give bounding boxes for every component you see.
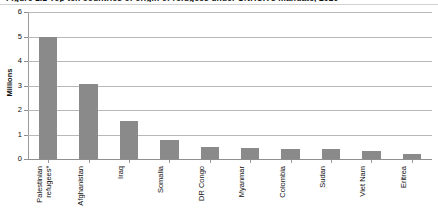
y-tick-label-5: 5	[10, 33, 22, 41]
x-tick-mark	[250, 160, 251, 163]
y-tick-label-0: 0	[10, 155, 22, 163]
x-axis-label: Colombia	[279, 166, 303, 198]
y-tick-mark-3	[24, 86, 28, 87]
bar	[160, 140, 179, 159]
x-axis-label: Afghanistan	[77, 166, 101, 206]
y-tick-mark-5	[24, 37, 28, 38]
y-tick-label-1: 1	[10, 131, 22, 139]
y-tick-label-2: 2	[10, 106, 22, 114]
x-tick-mark	[371, 160, 372, 163]
y-tick-label-6: 6	[10, 8, 22, 16]
top-divider-rule	[0, 4, 438, 5]
x-tick-mark	[291, 160, 292, 163]
x-tick-mark	[129, 160, 130, 163]
x-axis-label: Somalia	[157, 166, 181, 193]
bars-layer	[28, 12, 432, 159]
bar	[39, 37, 58, 160]
y-tick-label-4: 4	[10, 57, 22, 65]
x-axis-label: Sudan	[319, 166, 343, 188]
y-tick-mark-2	[24, 110, 28, 111]
bar	[281, 149, 300, 159]
y-tick-label-3: 3	[10, 82, 22, 90]
bar	[201, 147, 220, 159]
x-tick-mark	[48, 160, 49, 163]
y-tick-mark-6	[24, 12, 28, 13]
bar	[120, 121, 139, 159]
x-axis-label: Eritrea	[400, 166, 424, 188]
bar	[322, 149, 341, 159]
y-tick-mark-1	[24, 135, 28, 136]
x-tick-mark	[210, 160, 211, 163]
bar	[362, 151, 381, 159]
bar	[403, 154, 422, 159]
x-tick-mark	[169, 160, 170, 163]
x-tick-mark	[331, 160, 332, 163]
plot-area	[28, 12, 432, 159]
x-axis-label: Viet Nam	[359, 166, 383, 197]
x-axis-label: DR Congo	[198, 166, 222, 201]
bar	[241, 148, 260, 159]
x-tick-mark	[89, 160, 90, 163]
y-tick-mark-4	[24, 61, 28, 62]
chart-title: Figure 1.1 Top ten countries of origin o…	[6, 0, 338, 2]
y-tick-mark-0	[24, 159, 28, 160]
x-axis-label: Iraq	[117, 166, 141, 179]
x-axis-label: Myanmar	[238, 166, 262, 197]
bar	[79, 84, 98, 159]
x-axis-label: Palestinian refugees*	[36, 166, 60, 203]
x-tick-mark	[412, 160, 413, 163]
